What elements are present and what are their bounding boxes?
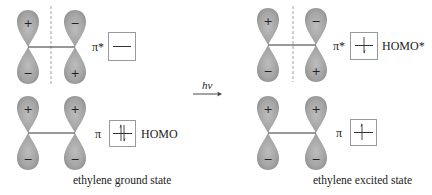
ground-pi-level-box — [110, 121, 136, 147]
svg-text:+: + — [263, 15, 272, 28]
ground-pi-star-level-box — [109, 33, 136, 61]
ground-pi-label: π — [95, 128, 101, 140]
excited-pi-star-orbital: + − − + — [257, 6, 327, 82]
transition-label: hν — [202, 80, 212, 91]
svg-text:−: − — [70, 17, 79, 30]
svg-text:−: − — [263, 65, 272, 78]
excited-pi-label: π — [336, 127, 342, 139]
svg-text:−: − — [311, 153, 320, 166]
svg-text:+: + — [70, 67, 79, 80]
ground-pi-orbital: + − + − — [17, 96, 86, 170]
excited-pi-star-label: π* — [333, 40, 345, 52]
svg-text:+: + — [23, 103, 32, 116]
excited-state-caption: ethylene excited state — [313, 175, 412, 187]
ground-pi-star-orbital: + − − + — [17, 6, 86, 85]
orbital-diagram: + − − + + − + − — [0, 0, 432, 195]
ground-state-caption: ethylene ground state — [73, 175, 171, 187]
svg-text:−: − — [23, 67, 32, 80]
excited-pi-level-box — [351, 120, 377, 146]
svg-text:+: + — [23, 17, 32, 30]
ground-pi-star-label: π* — [92, 41, 104, 53]
svg-text:−: − — [23, 153, 32, 166]
excited-pi-orbital: + − + − — [257, 96, 327, 170]
svg-text:−: − — [70, 153, 79, 166]
ground-homo-label: HOMO — [141, 128, 178, 140]
svg-text:−: − — [311, 15, 320, 28]
svg-text:+: + — [311, 65, 320, 78]
excitation-arrow — [193, 92, 222, 97]
svg-text:−: − — [263, 153, 272, 166]
svg-text:+: + — [311, 103, 320, 116]
svg-text:+: + — [70, 103, 79, 116]
svg-text:+: + — [263, 103, 272, 116]
excited-homo-star-label: HOMO* — [382, 40, 425, 52]
excited-pi-star-level-box — [351, 33, 378, 60]
